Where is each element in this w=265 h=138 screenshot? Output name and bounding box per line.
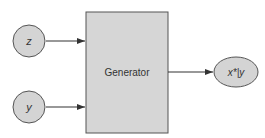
node-y: y [13, 91, 45, 123]
node-generator: Generator [86, 12, 168, 133]
output-label: x*|y [227, 67, 245, 78]
node-z: z [13, 25, 45, 57]
z-label: z [25, 35, 32, 47]
generator-label: Generator [104, 67, 150, 78]
diagram-canvas: z y Generator x*|y [0, 0, 265, 138]
node-output: x*|y [214, 57, 258, 87]
